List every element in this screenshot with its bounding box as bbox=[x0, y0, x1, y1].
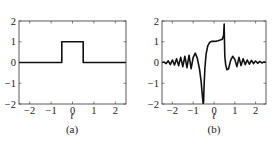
y-tick-label: 1 bbox=[11, 36, 16, 47]
x-tick-label: 1 bbox=[91, 105, 96, 116]
caption-b: (b) bbox=[208, 123, 221, 136]
y-tick-label: 2 bbox=[11, 16, 16, 27]
caption-a: (a) bbox=[66, 123, 79, 136]
y-tick-label: −2 bbox=[5, 99, 16, 110]
x-tick-label: −2 bbox=[24, 105, 35, 116]
figure: −2−1012−2−1012 −2−1012−2−1012 t (a) t (b… bbox=[0, 0, 272, 147]
y-tick-label: 1 bbox=[154, 36, 159, 47]
y-tick-label: 0 bbox=[11, 57, 16, 68]
y-tick-label: −2 bbox=[148, 99, 159, 110]
data-line bbox=[162, 24, 266, 104]
x-tick-label: 1 bbox=[232, 105, 237, 116]
y-tick-label: −1 bbox=[5, 78, 16, 89]
plot-a: −2−1012−2−1012 bbox=[5, 16, 126, 117]
x-tick-label: −1 bbox=[188, 105, 199, 116]
x-tick-label: −2 bbox=[167, 105, 178, 116]
x-tick-label: 2 bbox=[113, 105, 118, 116]
x-tick-label: −1 bbox=[46, 105, 57, 116]
data-line bbox=[19, 42, 126, 63]
plot-b: −2−1012−2−1012 bbox=[148, 16, 266, 117]
y-tick-label: 0 bbox=[154, 57, 159, 68]
y-tick-label: 2 bbox=[154, 16, 159, 27]
x-tick-label: 2 bbox=[253, 105, 258, 116]
y-tick-label: −1 bbox=[148, 78, 159, 89]
